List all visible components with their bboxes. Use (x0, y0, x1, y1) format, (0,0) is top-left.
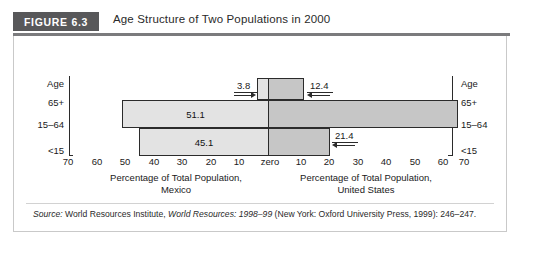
source-title: World Resources: 1998–99 (168, 209, 272, 219)
source-note: Source: World Resources Institute, World… (33, 209, 503, 219)
figure-container: FIGURE 6.3 Age Structure of Two Populati… (0, 0, 546, 257)
figure-title: Age Structure of Two Populations in 2000 (113, 13, 330, 25)
source-divider (26, 203, 494, 204)
source-prefix: Source: (33, 209, 63, 219)
source-text-2: (New York: Oxford University Press, 1999… (272, 209, 476, 219)
source-text-1: World Resources Institute, (63, 209, 168, 219)
figure-header: FIGURE 6.3 Age Structure of Two Populati… (13, 12, 510, 33)
figure-number-tag: FIGURE 6.3 (13, 12, 99, 31)
